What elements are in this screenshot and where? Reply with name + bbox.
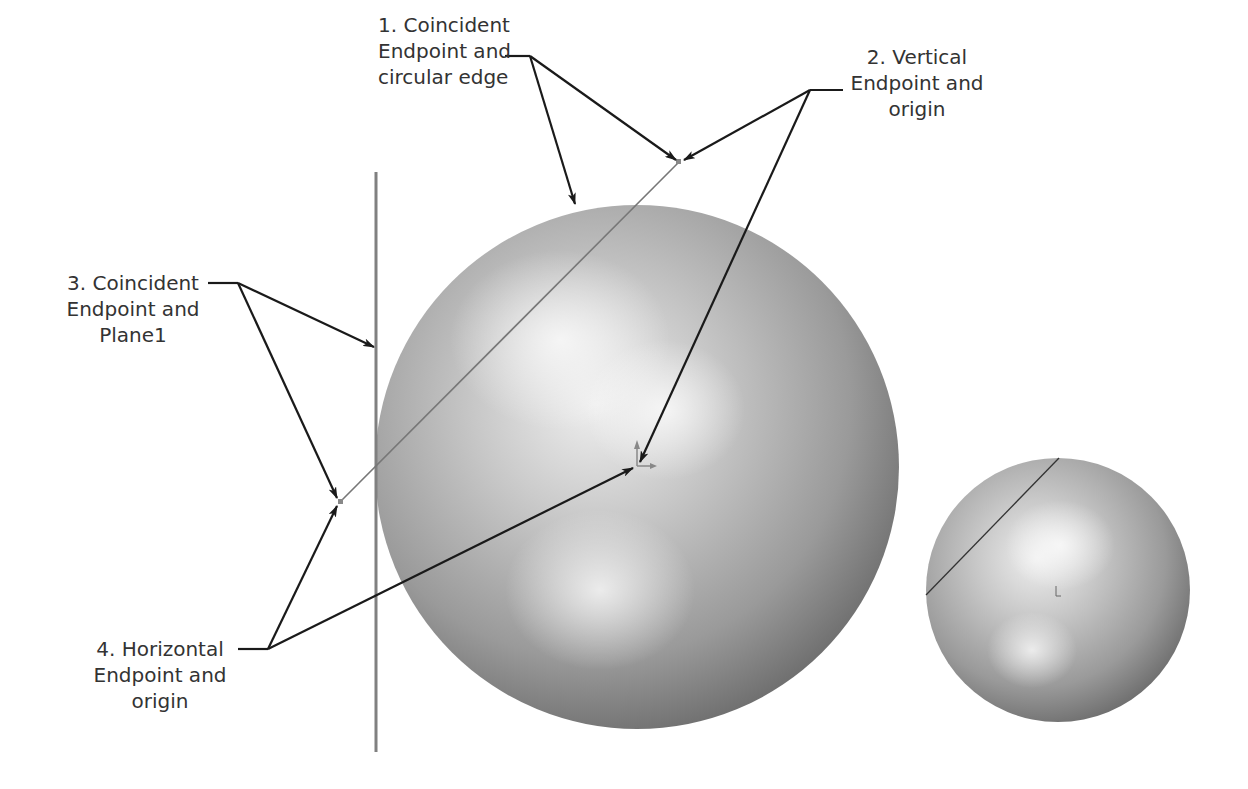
- callout-3-line-1: 3. Coincident: [58, 270, 208, 296]
- callout-3-line-2: Endpoint and: [58, 296, 208, 322]
- callout-1-line-1: 1. Coincident: [378, 12, 508, 38]
- callout-1-line-3: circular edge: [378, 64, 508, 90]
- endpoint-bottom: [338, 499, 343, 504]
- small-sphere: [926, 458, 1190, 722]
- large-sphere: [375, 205, 899, 729]
- callout-1-coincident-circular-edge: 1. Coincident Endpoint and circular edge: [378, 12, 508, 90]
- callout-3-coincident-plane1: 3. Coincident Endpoint and Plane1: [58, 270, 208, 348]
- callout-4-horizontal-origin: 4. Horizontal Endpoint and origin: [82, 636, 238, 714]
- callout-2-line-1: 2. Vertical: [842, 44, 992, 70]
- callout-2-line-2: Endpoint and: [842, 70, 992, 96]
- callout-4-line-2: Endpoint and: [82, 662, 238, 688]
- callout-4-line-1: 4. Horizontal: [82, 636, 238, 662]
- callout-1-line-2: Endpoint and: [378, 38, 508, 64]
- callout-3-line-3: Plane1: [58, 322, 208, 348]
- callout-2-vertical-origin: 2. Vertical Endpoint and origin: [842, 44, 992, 122]
- callout-2-line-3: origin: [842, 96, 992, 122]
- callout-4-line-3: origin: [82, 688, 238, 714]
- endpoint-top: [676, 159, 681, 164]
